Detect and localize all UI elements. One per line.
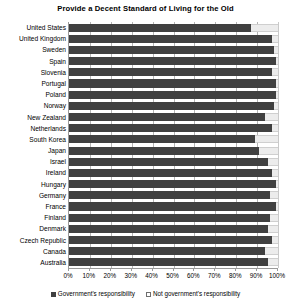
bar-segment-not-government	[265, 113, 278, 121]
x-tick-10	[89, 268, 90, 271]
x-tick-60	[193, 268, 194, 271]
bar-row	[69, 169, 278, 177]
bar-row	[69, 91, 278, 99]
y-axis-label-south-korea: South Korea	[2, 136, 66, 143]
x-tick-90	[256, 268, 257, 271]
legend-item-notgov[interactable]: Not government's responsibility	[146, 290, 240, 298]
x-tick-label-100: 100%	[269, 272, 285, 280]
bar-segment-government	[69, 236, 272, 244]
bar-stack	[69, 79, 278, 87]
bar-segment-not-government	[270, 214, 278, 222]
bar-row	[69, 147, 278, 155]
bar-segment-government	[69, 214, 270, 222]
bar-row	[69, 57, 278, 65]
bar-segment-not-government	[268, 258, 278, 266]
bar-stack	[69, 236, 278, 244]
bar-stack	[69, 57, 278, 65]
bar-segment-government	[69, 147, 259, 155]
legend-label: Government's responsibility	[58, 290, 135, 298]
bar-stack	[69, 202, 278, 210]
bar-row	[69, 214, 278, 222]
bar-segment-government	[69, 258, 268, 266]
bar-row	[69, 180, 278, 188]
bar-stack	[69, 135, 278, 143]
x-tick-label-20: 20%	[103, 272, 116, 280]
y-axis-label-canada: Canada	[2, 248, 66, 255]
bar-segment-government	[69, 57, 276, 65]
y-axis-label-czech-republic: Czech Republic	[2, 237, 66, 244]
y-axis-label-norway: Norway	[2, 102, 66, 109]
bar-segment-not-government	[272, 35, 278, 43]
bar-segment-not-government	[272, 169, 278, 177]
bar-segment-government	[69, 79, 276, 87]
gridline-100	[278, 22, 279, 268]
x-tick-70	[214, 268, 215, 271]
y-axis-label-france: France	[2, 203, 66, 210]
x-tick-50	[173, 268, 174, 271]
bar-row	[69, 46, 278, 54]
y-axis-label-ireland: Ireland	[2, 169, 66, 176]
bar-stack	[69, 35, 278, 43]
x-tick-label-60: 60%	[187, 272, 200, 280]
bar-segment-government	[69, 169, 272, 177]
x-tick-label-80: 80%	[229, 272, 242, 280]
bar-segment-government	[69, 113, 265, 121]
stacked-bar-chart: Provide a Decent Standard of Living for …	[0, 0, 291, 306]
bar-segment-not-government	[276, 91, 278, 99]
bar-segment-not-government	[270, 191, 278, 199]
bar-row	[69, 79, 278, 87]
bar-segment-not-government	[255, 135, 278, 143]
bar-segment-not-government	[259, 147, 278, 155]
bar-row	[69, 135, 278, 143]
bar-row	[69, 68, 278, 76]
x-tick-label-50: 50%	[166, 272, 179, 280]
y-axis-label-netherlands: Netherlands	[2, 125, 66, 132]
y-axis-label-new-zealand: New Zealand	[2, 114, 66, 121]
y-axis-label-sweden: Sweden	[2, 46, 66, 53]
bar-stack	[69, 147, 278, 155]
x-tick-20	[110, 268, 111, 271]
bar-stack	[69, 214, 278, 222]
bar-segment-not-government	[268, 158, 278, 166]
x-tick-label-40: 40%	[145, 272, 158, 280]
x-tick-40	[152, 268, 153, 271]
bar-segment-government	[69, 191, 270, 199]
bar-stack	[69, 180, 278, 188]
bar-segment-not-government	[251, 24, 278, 32]
y-axis-label-australia: Australia	[2, 259, 66, 266]
bar-segment-government	[69, 225, 268, 233]
y-axis-label-slovenia: Slovenia	[2, 69, 66, 76]
bar-segment-not-government	[272, 124, 278, 132]
bar-stack	[69, 225, 278, 233]
bar-segment-government	[69, 202, 276, 210]
x-tick-label-30: 30%	[124, 272, 137, 280]
bar-segment-government	[69, 35, 272, 43]
bar-segment-government	[69, 180, 276, 188]
legend-swatch-icon	[51, 292, 56, 297]
x-tick-label-10: 10%	[83, 272, 96, 280]
bar-segment-government	[69, 247, 265, 255]
bar-row	[69, 202, 278, 210]
x-tick-0	[68, 268, 69, 271]
legend-swatch-icon	[146, 292, 151, 297]
bar-segment-not-government	[276, 57, 278, 65]
bar-segment-not-government	[276, 202, 278, 210]
bar-row	[69, 236, 278, 244]
bar-segment-government	[69, 135, 255, 143]
bar-row	[69, 158, 278, 166]
bar-stack	[69, 124, 278, 132]
bar-stack	[69, 68, 278, 76]
bar-stack	[69, 46, 278, 54]
y-axis-label-finland: Finland	[2, 214, 66, 221]
bar-row	[69, 102, 278, 110]
y-axis-label-hungary: Hungary	[2, 181, 66, 188]
x-tick-label-0: 0%	[63, 272, 72, 280]
bar-stack	[69, 113, 278, 121]
bar-segment-not-government	[272, 68, 278, 76]
legend-item-gov[interactable]: Government's responsibility	[51, 290, 135, 298]
bar-stack	[69, 158, 278, 166]
bar-segment-government	[69, 91, 276, 99]
x-tick-label-70: 70%	[208, 272, 221, 280]
y-axis-label-portugal: Portugal	[2, 80, 66, 87]
bar-row	[69, 124, 278, 132]
